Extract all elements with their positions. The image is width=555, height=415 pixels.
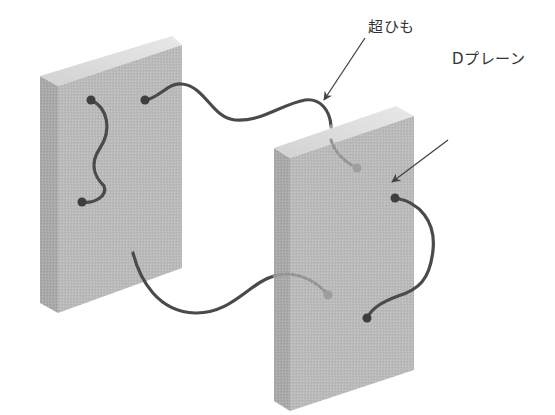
- right-panel-front-face: [290, 116, 414, 411]
- dbrane-label: Dプレーン: [452, 47, 525, 68]
- left-dbrane-panel: [40, 36, 182, 313]
- string-endpoint: [87, 96, 96, 105]
- left-panel-side-face: [40, 76, 58, 313]
- superstring-label: 超ひも: [368, 15, 415, 36]
- string-endpoint: [391, 194, 400, 203]
- left-panel-front-face: [58, 45, 182, 313]
- string-endpoint: [78, 198, 87, 207]
- string-endpoint: [363, 314, 372, 323]
- string-endpoint: [141, 96, 150, 105]
- superstring-arrow: [324, 38, 365, 100]
- right-dbrane-panel: [274, 106, 414, 411]
- string-endpoint-hidden: [324, 291, 333, 300]
- right-panel-side-face: [274, 148, 290, 411]
